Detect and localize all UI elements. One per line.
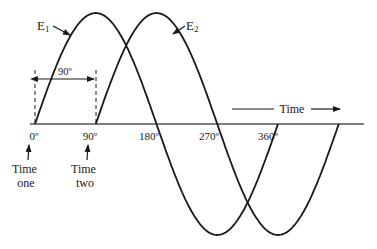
wave-e1-pointer — [53, 26, 70, 35]
wave-e1-label: E1 — [37, 18, 49, 34]
tick-180deg: 180º — [139, 130, 160, 142]
tick-0deg: 0º — [30, 130, 40, 142]
time-one-label: Time one — [12, 162, 40, 190]
phase-difference-label: 90º — [58, 66, 73, 77]
tick-270deg: 270º — [199, 130, 220, 142]
sine-wave-diagram: 90º E1 E2 0º 90º 180º 270º 360º Time one… — [0, 0, 377, 249]
time-two-label: Time two — [71, 162, 99, 190]
time-two-arrow — [87, 145, 88, 160]
time-one-arrow — [28, 145, 29, 160]
time-arrow-label: Time — [280, 102, 305, 116]
tick-360deg: 360º — [258, 130, 279, 142]
wave-e2-label: E2 — [186, 18, 198, 34]
tick-90deg: 90º — [83, 130, 98, 142]
